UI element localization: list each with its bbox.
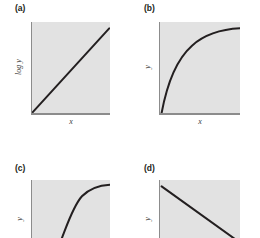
panel-b-label: (b) [144, 4, 155, 13]
panel-a-label: (a) [15, 4, 25, 13]
panel-d-curve [160, 180, 240, 238]
figure-panel-grid: (a) log y x (b) y x (c) [0, 0, 260, 238]
panel-a-y-axis-label: log y [15, 50, 23, 84]
panel-c-plot-area [32, 180, 110, 238]
panel-c-y-axis-label: y [16, 208, 24, 230]
panel-b-curve [160, 22, 240, 113]
panel-b-y-axis-label: y [144, 56, 152, 78]
panel-b-x-axis [159, 113, 240, 115]
panel-c-label: (c) [15, 164, 25, 173]
panel-a-curve [32, 22, 110, 113]
panel-b-plot-area [160, 22, 240, 113]
panel-d-y-axis-label: y [144, 208, 152, 230]
panel-a-x-axis-label: x [55, 118, 87, 126]
panel-d-label: (d) [144, 164, 155, 173]
panel-a-plot-area [32, 22, 110, 113]
panel-c-curve [32, 180, 110, 238]
panel-b-x-axis-label: x [184, 118, 216, 126]
panel-d-plot-area [160, 180, 240, 238]
panel-a-x-axis [31, 113, 110, 115]
